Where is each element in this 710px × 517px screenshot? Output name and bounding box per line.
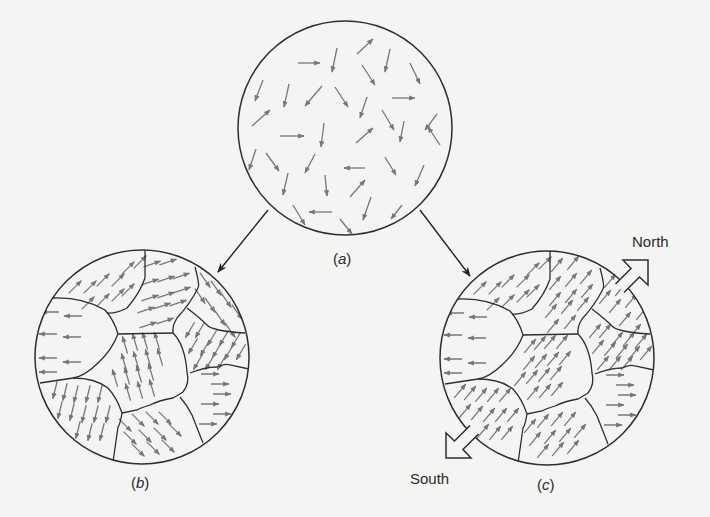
- dipole-arrow-icon: [139, 322, 156, 328]
- dipole-arrow-icon: [507, 408, 519, 422]
- dipole-arrow-icon: [589, 324, 601, 338]
- dipole-arrow-icon: [305, 86, 322, 106]
- dipole-arrow-icon: [69, 281, 82, 294]
- label-b-close: ): [144, 474, 149, 491]
- dipole-arrow-icon: [149, 379, 154, 396]
- sample-outline: [35, 250, 249, 464]
- dipole-arrow-icon: [340, 219, 352, 234]
- dipole-arrow-icon: [564, 412, 576, 426]
- dipole-arrow-icon: [350, 180, 365, 197]
- dipole-arrow-icon: [146, 412, 159, 425]
- dipole-arrow-icon: [635, 334, 647, 348]
- domain-lower-right: [199, 374, 231, 424]
- dipole-arrow-icon: [159, 412, 172, 425]
- dipole-arrow-icon: [357, 39, 373, 54]
- domain-right-middle: [589, 324, 652, 370]
- dipole-arrow-icon: [98, 385, 102, 402]
- dipole-arrow-icon: [551, 382, 563, 396]
- dipole-arrow-icon: [382, 110, 394, 130]
- arrow-a-to-c-icon: [420, 210, 470, 276]
- label-a-close: ): [346, 250, 351, 267]
- dipole-arrow-icon: [154, 428, 167, 441]
- dipole-arrow-icon: [97, 294, 110, 307]
- dipole-arrow-icon: [137, 307, 154, 313]
- dipole-arrow-icon: [195, 322, 204, 337]
- dipole-arrow-icon: [207, 330, 216, 345]
- dipole-arrow-icon: [185, 322, 194, 337]
- domain-boundary: [512, 251, 550, 314]
- dipole-arrow-icon: [200, 340, 209, 355]
- dipole-arrow-icon: [552, 442, 564, 456]
- dipole-arrow-icon: [325, 175, 327, 196]
- dipole-arrow-icon: [400, 121, 404, 142]
- north-label: North: [632, 233, 669, 250]
- dipole-arrow-icon: [153, 303, 170, 309]
- dipole-arrow-icon: [112, 274, 125, 287]
- dipole-arrow-icon: [139, 430, 152, 443]
- dipole-arrow-icon: [547, 319, 559, 333]
- dipole-arrow-icon: [565, 273, 577, 287]
- dipole-arrow-icon: [524, 339, 536, 353]
- domain-bottom: [119, 412, 182, 457]
- dipole-arrow-icon: [428, 127, 440, 145]
- dipole-arrow-icon: [471, 406, 483, 420]
- dipole-arrow-icon: [551, 258, 563, 272]
- dipole-arrow-icon: [162, 440, 175, 453]
- dipole-arrow-icon: [551, 412, 563, 426]
- dipole-arrow-icon: [577, 297, 589, 311]
- dipole-arrow-icon: [537, 444, 549, 458]
- dipole-arrow-icon: [604, 274, 616, 288]
- dipole-arrow-icon: [425, 114, 437, 130]
- domain-boundary: [458, 299, 523, 335]
- dipole-arrow-icon: [565, 289, 577, 303]
- dipole-arrow-icon: [266, 153, 279, 171]
- domain-boundary: [478, 379, 527, 463]
- dipole-arrow-icon: [415, 165, 424, 186]
- dipole-arrow-icon: [567, 256, 579, 270]
- domain-boundary: [180, 397, 203, 443]
- dipole-arrow-icon: [100, 423, 104, 440]
- dipole-arrow-icon: [628, 346, 640, 360]
- dipole-arrow-icon: [124, 432, 137, 445]
- dipole-arrow-icon: [640, 346, 652, 360]
- dipole-arrow-icon: [538, 368, 550, 382]
- dipole-arrow-icon: [193, 354, 202, 369]
- dipole-arrow-icon: [84, 281, 97, 294]
- domain-bottom: [524, 412, 586, 458]
- dipole-arrow-icon: [544, 430, 556, 444]
- dipole-arrow-icon: [454, 384, 466, 398]
- dipole-arrow-icon: [514, 372, 526, 386]
- domain-boundary: [523, 334, 578, 335]
- dipole-arrow-icon: [556, 335, 568, 349]
- domain-boundary: [122, 333, 188, 413]
- label-c-letter: c: [542, 476, 550, 493]
- dipole-arrow-icon: [581, 284, 593, 298]
- south-arrow-icon: [446, 425, 479, 458]
- dipole-arrow-icon: [561, 300, 573, 314]
- dipole-arrow-icon: [363, 197, 371, 220]
- domain-boundary: [578, 268, 604, 334]
- dipole-arrow-icon: [137, 381, 142, 398]
- dipole-arrow-icon: [156, 318, 173, 324]
- dipole-arrow-icon: [125, 383, 130, 400]
- dipole-arrow-icon: [169, 300, 186, 306]
- dipole-arrow-icon: [86, 385, 90, 402]
- dipole-arrow-icon: [523, 356, 535, 370]
- dipole-arrow-icon: [537, 414, 549, 428]
- dipole-arrow-icon: [362, 65, 375, 85]
- dipole-arrow-icon: [489, 426, 501, 440]
- dipole-arrow-icon: [535, 354, 547, 368]
- domain-boundary: [73, 378, 122, 462]
- dipole-arrow-icon: [599, 324, 611, 338]
- dipole-arrow-icon: [236, 344, 245, 359]
- dipole-arrow-icon: [53, 381, 57, 398]
- dipole-arrow-icon: [200, 273, 210, 288]
- dipole-arrow-icon: [616, 344, 628, 358]
- dipole-arrow-icon: [483, 408, 495, 422]
- domain-top-middle: [545, 256, 593, 333]
- dipole-arrow-icon: [132, 444, 145, 457]
- dipole-arrow-icon: [385, 49, 390, 72]
- dipole-arrow-icon: [360, 97, 367, 118]
- domain-boundary: [585, 398, 608, 444]
- magnetic-domains-diagram: [0, 0, 710, 517]
